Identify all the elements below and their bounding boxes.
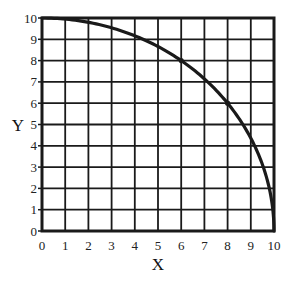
y-tick-label: 3 bbox=[31, 160, 38, 175]
y-tick-label: 10 bbox=[24, 11, 37, 26]
x-tick-label: 0 bbox=[39, 238, 46, 253]
x-tick-label: 5 bbox=[155, 238, 162, 253]
x-tick-label: 3 bbox=[108, 238, 115, 253]
x-tick-label: 1 bbox=[62, 238, 69, 253]
grid-lines bbox=[42, 18, 274, 231]
y-tick-label: 8 bbox=[31, 53, 38, 68]
x-tick-label: 4 bbox=[132, 238, 139, 253]
x-tick-label: 6 bbox=[178, 238, 185, 253]
x-tick-label: 7 bbox=[201, 238, 208, 253]
y-tick-label: 7 bbox=[31, 74, 38, 89]
x-tick-label: 8 bbox=[224, 238, 231, 253]
chart: 012345678910 012345678910 X Y bbox=[0, 0, 297, 283]
marked-point bbox=[179, 58, 184, 63]
x-tick-labels: 012345678910 bbox=[39, 238, 281, 253]
y-tick-label: 0 bbox=[31, 224, 38, 239]
y-axis-label: Y bbox=[12, 116, 24, 135]
y-tick-label: 5 bbox=[31, 117, 38, 132]
y-tick-label: 2 bbox=[31, 181, 38, 196]
y-tick-labels: 012345678910 bbox=[24, 11, 38, 239]
x-tick-label: 9 bbox=[248, 238, 255, 253]
y-tick-label: 6 bbox=[31, 96, 38, 111]
x-axis-label: X bbox=[152, 255, 164, 274]
x-tick-label: 10 bbox=[268, 238, 281, 253]
y-tick-label: 9 bbox=[31, 32, 38, 47]
x-tick-label: 2 bbox=[85, 238, 92, 253]
y-tick-label: 1 bbox=[31, 202, 38, 217]
marked-point bbox=[225, 101, 230, 106]
y-tick-label: 4 bbox=[31, 138, 38, 153]
